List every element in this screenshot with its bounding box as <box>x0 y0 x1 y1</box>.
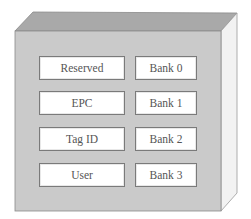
field-tag-id: Tag ID <box>39 127 125 151</box>
memory-cube <box>0 0 251 219</box>
cube-side-face <box>221 13 237 211</box>
field-epc: EPC <box>39 91 125 115</box>
bank-2: Bank 2 <box>135 127 197 151</box>
field-reserved: Reserved <box>39 56 125 80</box>
field-user: User <box>39 163 125 187</box>
bank-0: Bank 0 <box>135 56 197 80</box>
bank-1: Bank 1 <box>135 91 197 115</box>
cube-top-face <box>15 12 237 31</box>
bank-3: Bank 3 <box>135 163 197 187</box>
